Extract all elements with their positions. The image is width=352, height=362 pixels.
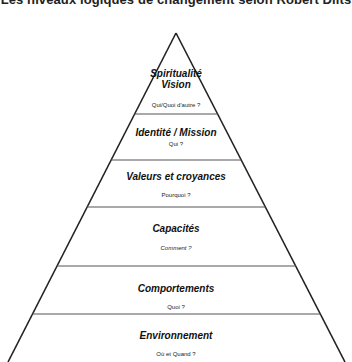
level-values-question: Pourquoi ? bbox=[0, 192, 352, 199]
level-environment-name: Environnement bbox=[0, 330, 352, 341]
level-identity-name: Identité / Mission bbox=[0, 127, 352, 138]
level-behaviors-name: Comportements bbox=[0, 283, 352, 294]
level-environment-question: Où et Quand ? bbox=[0, 351, 352, 358]
level-spirituality-question: Qui/Quoi d'autre ? bbox=[0, 102, 352, 109]
level-identity-question: Qui ? bbox=[0, 141, 352, 148]
level-capabilities-question: Comment ? bbox=[0, 245, 352, 252]
level-behaviors-question: Quoi ? bbox=[0, 304, 352, 311]
level-spirituality-name2: Vision bbox=[0, 79, 352, 90]
level-capabilities-name: Capacités bbox=[0, 223, 352, 234]
level-values-name: Valeurs et croyances bbox=[0, 171, 352, 182]
level-spirituality-name: Spiritualité bbox=[0, 68, 352, 79]
